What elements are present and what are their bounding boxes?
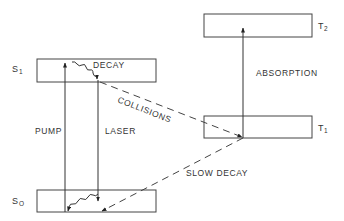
svg-text:2: 2 [324,25,328,32]
state-s0-box [37,190,156,212]
svg-text:S: S [12,196,19,206]
state-s0-label: S O [12,196,25,207]
svg-text:1: 1 [19,68,23,75]
pump-label: PUMP [35,126,62,136]
state-t2-box [204,14,312,37]
svg-text:1: 1 [324,127,328,134]
slow-decay-label: SLOW DECAY [186,168,248,178]
absorption-label: ABSORPTION [256,68,318,78]
state-t2-label: T 2 [318,21,328,32]
laser-label: LASER [105,126,136,136]
state-s1-label: S 1 [12,64,23,75]
state-t1-box [204,116,312,138]
svg-text:O: O [19,200,25,207]
s0-relaxation-wavy-arrow [68,194,98,211]
collisions-label: COLLISIONS [116,95,173,125]
state-t1-label: T 1 [318,123,328,134]
energy-level-diagram: S 1 S O T 2 T 1 PUMP LASER DECAY COLLISI… [0,0,344,221]
decay-label: DECAY [93,60,125,70]
svg-text:S: S [12,64,19,74]
